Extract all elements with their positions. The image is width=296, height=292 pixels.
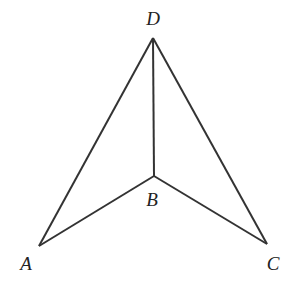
segment-DB [153, 38, 154, 176]
geometry-diagram: A B C D [0, 0, 296, 292]
label-B: B [146, 189, 158, 210]
label-A: A [18, 253, 32, 274]
segment-DA [39, 38, 153, 246]
segment-DC [153, 38, 267, 244]
segment-BC [154, 176, 267, 244]
edges [39, 38, 267, 246]
label-C: C [267, 253, 280, 274]
label-D: D [145, 8, 160, 29]
segment-AB [39, 176, 154, 246]
